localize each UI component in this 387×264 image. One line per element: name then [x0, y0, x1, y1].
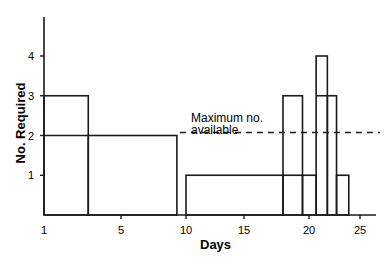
step-segment	[283, 96, 303, 215]
step-segment	[337, 175, 349, 215]
y-ticks: 1234	[28, 50, 44, 181]
x-ticks: 1510152025	[41, 215, 366, 236]
step-segment	[186, 175, 283, 215]
x-tick-label: 20	[303, 224, 315, 236]
y-tick-label: 2	[28, 130, 34, 142]
step-segment	[44, 96, 88, 215]
annotation-max-available-line2: available	[191, 123, 239, 137]
x-tick-label: 15	[238, 224, 250, 236]
step-segment	[303, 175, 317, 215]
y-axis-title: No. Required	[13, 82, 28, 163]
step-segment	[316, 56, 327, 215]
x-tick-label: 1	[41, 224, 47, 236]
y-tick-label: 3	[28, 90, 34, 102]
x-tick-label: 5	[118, 224, 124, 236]
y-tick-label: 4	[28, 50, 34, 62]
step-segment	[327, 96, 336, 215]
resource-histogram-chart: 1234 1510152025 No. Required Days Maximu…	[0, 0, 387, 264]
y-tick-label: 1	[28, 169, 34, 181]
step-segment	[88, 136, 177, 216]
x-axis-title: Days	[200, 237, 231, 252]
x-tick-label: 10	[180, 224, 192, 236]
x-tick-label: 25	[354, 224, 366, 236]
